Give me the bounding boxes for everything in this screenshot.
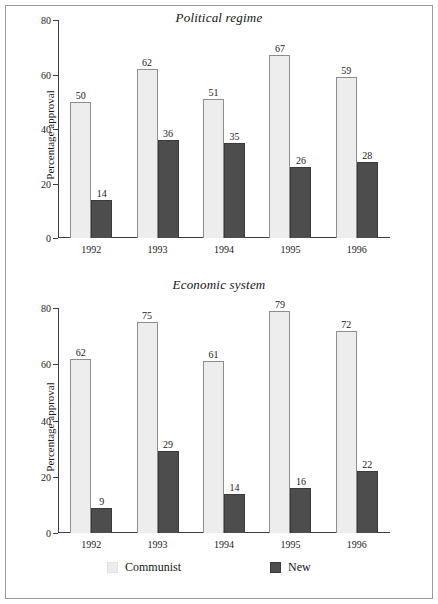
bar[interactable]: 16 — [290, 488, 311, 533]
bar-series-group: 629199275291993611419947916199572221996 — [58, 308, 390, 533]
bar-pair: 7529 — [137, 308, 179, 533]
bar[interactable]: 61 — [203, 361, 224, 533]
bar-value-label: 14 — [229, 482, 239, 493]
bar-pair: 7916 — [269, 308, 311, 533]
bar-value-label: 29 — [163, 439, 173, 450]
y-axis-label: Percentage approval — [44, 90, 56, 179]
bar-group: 72221996 — [324, 308, 390, 533]
y-tick-label: 20 — [41, 178, 51, 189]
legend-item-new: New — [270, 560, 311, 575]
y-tick-label: 60 — [41, 359, 51, 370]
bar-group: 59281996 — [324, 20, 390, 238]
bar-value-label: 75 — [142, 310, 152, 321]
legend-swatch-icon — [107, 562, 118, 573]
legend-swatch-icon — [270, 562, 281, 573]
bar[interactable]: 29 — [158, 451, 179, 533]
x-tick-label: 1994 — [191, 539, 257, 550]
bar[interactable]: 36 — [158, 140, 179, 238]
y-tick-label: 80 — [41, 15, 51, 26]
x-tick-label: 1994 — [191, 244, 257, 255]
x-tick-label: 1993 — [125, 244, 191, 255]
bar-value-label: 26 — [296, 155, 306, 166]
x-tick-label: 1992 — [58, 539, 124, 550]
bar[interactable]: 14 — [91, 200, 112, 238]
legend-label-new: New — [288, 560, 311, 575]
legend-label-communist: Communist — [125, 560, 181, 575]
bar[interactable]: 51 — [203, 99, 224, 238]
y-tick-label: 80 — [41, 303, 51, 314]
chart-title-economic-system: Economic system — [0, 277, 438, 293]
bar-value-label: 28 — [362, 150, 372, 161]
x-tick-label: 1992 — [58, 244, 124, 255]
bar-group: 62361993 — [124, 20, 190, 238]
bar[interactable]: 26 — [290, 167, 311, 238]
x-tick-label: 1993 — [125, 539, 191, 550]
bar-pair: 5928 — [336, 20, 378, 238]
bar-value-label: 62 — [76, 347, 86, 358]
chart-panel-economic-system: Economic system Percentage approval 0204… — [0, 270, 438, 560]
bar[interactable]: 59 — [336, 77, 357, 238]
plot-area-political-regime: Percentage approval 020406080 5014199262… — [58, 20, 390, 238]
bar-group: 6291992 — [58, 308, 124, 533]
bar-group: 50141992 — [58, 20, 124, 238]
bar[interactable]: 75 — [137, 322, 158, 533]
bar-value-label: 16 — [296, 476, 306, 487]
bar-value-label: 9 — [99, 496, 104, 507]
chart-legend: Communist New — [0, 560, 438, 582]
chart-panel-political-regime: Political regime Percentage approval 020… — [0, 0, 438, 270]
bar-pair: 5014 — [70, 20, 112, 238]
bar[interactable]: 9 — [91, 508, 112, 533]
bar-group: 67261995 — [257, 20, 323, 238]
bar-series-group: 5014199262361993513519946726199559281996 — [58, 20, 390, 238]
y-tick-label: 20 — [41, 471, 51, 482]
bar-value-label: 59 — [341, 65, 351, 76]
y-tick-label: 40 — [41, 415, 51, 426]
x-tick-label: 1995 — [257, 244, 323, 255]
bar-value-label: 79 — [275, 299, 285, 310]
bar-pair: 6114 — [203, 308, 245, 533]
bar[interactable]: 50 — [70, 102, 91, 238]
bar-pair: 5135 — [203, 20, 245, 238]
bar-value-label: 22 — [362, 459, 372, 470]
y-axis-label: Percentage approval — [44, 382, 56, 471]
y-tick-label: 0 — [46, 233, 51, 244]
bar-value-label: 72 — [341, 319, 351, 330]
bar-value-label: 14 — [97, 188, 107, 199]
bar[interactable]: 62 — [70, 359, 91, 533]
bar[interactable]: 28 — [357, 162, 378, 238]
bar-group: 51351994 — [191, 20, 257, 238]
y-tick-mark — [53, 238, 58, 239]
bar-value-label: 61 — [208, 349, 218, 360]
bar-pair: 7222 — [336, 308, 378, 533]
bar[interactable]: 72 — [336, 331, 357, 534]
bar-group: 75291993 — [124, 308, 190, 533]
bar-value-label: 36 — [163, 128, 173, 139]
bar[interactable]: 35 — [224, 143, 245, 238]
figure: Political regime Percentage approval 020… — [0, 0, 438, 604]
bar[interactable]: 14 — [224, 494, 245, 533]
bar[interactable]: 79 — [269, 311, 290, 533]
y-tick-label: 60 — [41, 69, 51, 80]
bar-pair: 629 — [70, 308, 112, 533]
y-tick-mark — [53, 533, 58, 534]
bar-value-label: 50 — [76, 90, 86, 101]
bar-value-label: 51 — [208, 87, 218, 98]
bar-group: 79161995 — [257, 308, 323, 533]
bar-value-label: 35 — [229, 131, 239, 142]
bar-value-label: 67 — [275, 43, 285, 54]
y-tick-label: 40 — [41, 124, 51, 135]
plot-area-economic-system: Percentage approval 020406080 6291992752… — [58, 308, 390, 533]
bar-group: 61141994 — [191, 308, 257, 533]
bar-pair: 6236 — [137, 20, 179, 238]
x-tick-label: 1995 — [257, 539, 323, 550]
bar[interactable]: 67 — [269, 55, 290, 238]
bar[interactable]: 22 — [357, 471, 378, 533]
bar[interactable]: 62 — [137, 69, 158, 238]
x-tick-label: 1996 — [324, 539, 390, 550]
bar-pair: 6726 — [269, 20, 311, 238]
y-tick-label: 0 — [46, 528, 51, 539]
x-tick-label: 1996 — [324, 244, 390, 255]
bar-value-label: 62 — [142, 57, 152, 68]
legend-item-communist: Communist — [107, 560, 181, 575]
